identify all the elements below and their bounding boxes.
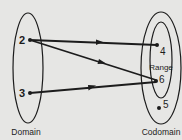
point-dot <box>28 91 32 95</box>
domain-ellipse <box>13 13 43 123</box>
mapping-arrow-2-to-4 <box>30 40 157 45</box>
point-dot <box>154 79 158 83</box>
codomain-element-5: 5 <box>163 99 169 110</box>
mapping-arrow-2-to-6 <box>30 40 156 80</box>
codomain-element-6: 6 <box>159 74 165 85</box>
domain-element-3: 3 <box>19 87 25 99</box>
point-dot <box>157 106 161 110</box>
range-label: Range <box>149 63 173 72</box>
point-dot <box>28 38 32 42</box>
range-ellipse <box>150 22 172 98</box>
arrowhead-icon <box>96 40 103 46</box>
point-dot <box>155 43 159 47</box>
mapping-arrows <box>30 40 157 94</box>
function-mapping-diagram: 2 3 4 6 5 Range Domain Codomain <box>0 0 182 140</box>
domain-label: Domain <box>11 127 41 137</box>
codomain-label: Codomain <box>142 127 181 137</box>
arrowhead-icon <box>98 59 107 64</box>
codomain-element-4: 4 <box>160 46 166 57</box>
domain-element-2: 2 <box>19 34 25 46</box>
